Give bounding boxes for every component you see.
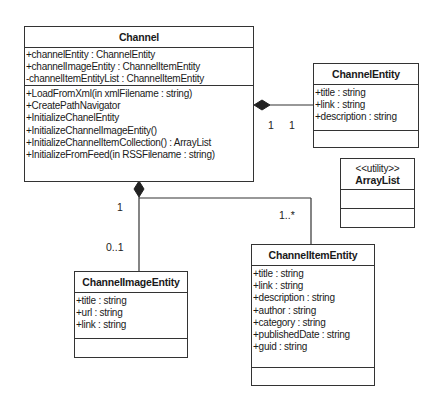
operations-section — [341, 209, 414, 212]
attributes-section: +channelEntity : ChannelEntity +channelI… — [25, 48, 253, 86]
class-channel-entity[interactable]: ChannelEntity +title : string +link : st… — [313, 63, 419, 148]
operation: +LoadFromXml(in xmlFilename : string) — [26, 88, 253, 100]
attribute: +title : string — [76, 295, 187, 307]
operations-section — [252, 368, 374, 371]
attribute: +description : string — [315, 111, 418, 123]
class-channel[interactable]: Channel +channelEntity : ChannelEntity +… — [24, 26, 254, 182]
operation: +InitializeChannelItemCollection() : Arr… — [26, 137, 253, 149]
class-name: ChannelEntity — [314, 64, 418, 85]
class-name: ChannelItemEntity — [252, 245, 374, 266]
stereotype-label: <<utility>> — [341, 163, 414, 174]
attribute: +category : string — [253, 317, 374, 329]
operations-section — [75, 339, 187, 342]
attributes-section — [341, 190, 414, 209]
class-channel-image-entity[interactable]: ChannelImageEntity +title : string +url … — [74, 271, 188, 358]
operation: +InitializeChannelImageEntity() — [26, 125, 253, 137]
multiplicity-label: 1 — [289, 119, 295, 131]
attributes-section: +title : string +link : string +descript… — [252, 266, 374, 368]
operation: +CreatePathNavigator — [26, 100, 253, 112]
operation: +InitializeChanelEntity — [26, 112, 253, 124]
association-channel-entity — [254, 100, 313, 110]
class-channel-item-entity[interactable]: ChannelItemEntity +title : string +link … — [251, 244, 375, 386]
multiplicity-label: 1 — [268, 119, 274, 131]
attribute: +channelImageEntity : ChannelItemEntity — [26, 61, 253, 73]
attribute: +author : string — [253, 305, 374, 317]
composition-diamond-icon — [254, 100, 270, 110]
attribute: +publishedDate : string — [253, 329, 374, 341]
class-array-list[interactable]: <<utility>> ArrayList — [340, 158, 415, 228]
composition-diamond-icon — [134, 181, 144, 197]
attributes-section: +title : string +url : string +link : st… — [75, 293, 187, 339]
multiplicity-label: 0..1 — [106, 241, 124, 253]
class-header: <<utility>> ArrayList — [341, 159, 414, 190]
attribute: +title : string — [253, 268, 374, 280]
operations-section: +LoadFromXml(in xmlFilename : string) +C… — [25, 86, 253, 162]
class-name: ChannelImageEntity — [75, 272, 187, 293]
attribute: +link : string — [253, 280, 374, 292]
operation: +InitializeFromFeed(in RSSFilename : str… — [26, 149, 253, 161]
attribute: +channelEntity : ChannelEntity — [26, 49, 253, 61]
class-name: Channel — [25, 27, 253, 48]
attribute: +link : string — [76, 319, 187, 331]
operations-section — [314, 131, 418, 134]
attribute: +link : string — [315, 99, 418, 111]
attribute: +title : string — [315, 87, 418, 99]
multiplicity-label: 1..* — [279, 209, 295, 221]
class-name: ArrayList — [341, 174, 414, 186]
attribute: -channelItemEntityList : ChannelItemEnti… — [26, 73, 253, 85]
attribute: +guid : string — [253, 341, 374, 353]
multiplicity-label: 1 — [117, 201, 123, 213]
attributes-section: +title : string +link : string +descript… — [314, 85, 418, 131]
attribute: +url : string — [76, 307, 187, 319]
attribute: +description : string — [253, 292, 374, 304]
